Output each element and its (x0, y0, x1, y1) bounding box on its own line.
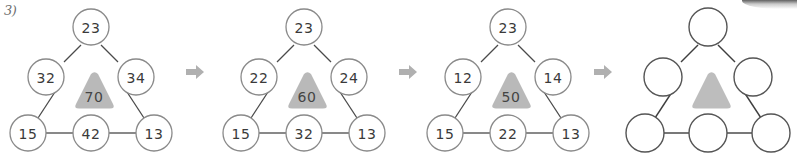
triangle-sum-label: 60 (286, 90, 328, 104)
node-left-mid (644, 58, 682, 96)
node-left-mid-label: 22 (239, 71, 279, 85)
triangle-sum-label: 70 (73, 90, 115, 104)
node-bottom-mid-label: 22 (488, 127, 528, 141)
node-bottom-right (752, 114, 790, 152)
node-left-mid-label: 32 (26, 71, 66, 85)
node-right-mid-label: 24 (329, 71, 369, 85)
node-bottom-left-label: 15 (221, 127, 261, 141)
node-bottom-mid-label: 32 (284, 127, 324, 141)
worksheet-page: 3) 23 32 (0, 0, 797, 153)
node-bottom-left-label: 15 (425, 127, 465, 141)
node-right-mid (734, 58, 772, 96)
triangle-puzzle-step-1: 23 32 34 15 42 13 70 (0, 0, 180, 153)
node-bottom-right-label: 13 (551, 127, 591, 141)
node-top-label: 23 (488, 21, 528, 35)
node-bottom-right-label: 13 (134, 127, 174, 141)
triangle-puzzle-step-3: 23 12 14 15 22 13 50 (417, 0, 597, 153)
node-bottom-mid (689, 114, 727, 152)
node-bottom-left (626, 114, 664, 152)
node-left-mid-label: 12 (443, 71, 483, 85)
node-top-label: 23 (71, 21, 111, 35)
node-bottom-right-label: 13 (347, 127, 387, 141)
node-right-mid-label: 14 (533, 71, 573, 85)
node-top-label: 23 (284, 21, 324, 35)
node-bottom-left-label: 15 (8, 127, 48, 141)
node-top (689, 8, 727, 46)
arrow-3-icon (592, 61, 614, 83)
triangle-puzzle-step-4-blank (617, 0, 797, 153)
triangle-puzzle-step-2: 23 22 24 15 32 13 60 (213, 0, 393, 153)
triangle-sum-label: 50 (490, 90, 532, 104)
arrow-1-icon (184, 61, 206, 83)
node-bottom-mid-label: 42 (71, 127, 111, 141)
node-right-mid-label: 34 (116, 71, 156, 85)
triangle-badge (692, 72, 731, 108)
arrow-2-icon (397, 61, 419, 83)
